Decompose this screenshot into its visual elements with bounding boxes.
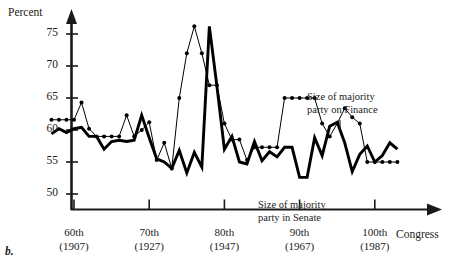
data-point-marker xyxy=(395,160,399,164)
x-tick-label: 80th(1947) xyxy=(194,226,254,252)
data-point-marker xyxy=(358,122,362,126)
data-point-marker xyxy=(365,160,369,164)
x-tick-label-year: (1987) xyxy=(345,240,405,252)
data-point-marker xyxy=(283,96,287,100)
data-point-marker xyxy=(140,128,144,132)
x-tick-label: 100th(1987) xyxy=(345,226,405,252)
data-point-marker xyxy=(275,145,279,149)
data-point-marker xyxy=(388,160,392,164)
y-tick-label: 65 xyxy=(32,90,58,102)
data-point-marker xyxy=(125,113,129,117)
x-tick-label-congress: 60th xyxy=(44,226,104,238)
data-point-marker xyxy=(192,24,196,28)
data-point-marker xyxy=(102,134,106,138)
x-tick-label: 90th(1967) xyxy=(270,226,330,252)
y-axis xyxy=(66,9,77,210)
y-tick-label: 60 xyxy=(32,122,58,134)
y-axis-title: Percent xyxy=(8,6,42,18)
chart-figure: Percent Congress b. 505560657075 60th(19… xyxy=(0,0,454,274)
x-tick-label-congress: 70th xyxy=(119,226,179,238)
data-point-marker xyxy=(80,100,84,104)
data-point-marker xyxy=(117,134,121,138)
x-tick-label-year: (1967) xyxy=(270,240,330,252)
annotation-finance-line2: party on Finance xyxy=(307,104,378,117)
x-tick-label-congress: 100th xyxy=(345,226,405,238)
data-point-marker xyxy=(320,122,324,126)
x-tick-label-year: (1947) xyxy=(194,240,254,252)
annotation-senate: Size of majority party in Senate xyxy=(258,199,326,224)
x-tick-label-year: (1907) xyxy=(44,240,104,252)
data-point-marker xyxy=(237,138,241,142)
panel-label: b. xyxy=(5,245,14,257)
x-tick-label-congress: 90th xyxy=(270,226,330,238)
y-tick-label: 70 xyxy=(32,58,58,70)
data-point-marker xyxy=(177,96,181,100)
x-tick-label-year: (1927) xyxy=(119,240,179,252)
data-point-marker xyxy=(298,96,302,100)
data-point-marker xyxy=(207,83,211,87)
annotation-senate-line2: party in Senate xyxy=(258,212,326,225)
data-point-marker xyxy=(162,141,166,145)
data-point-marker xyxy=(200,51,204,55)
data-point-marker xyxy=(87,127,91,131)
data-point-marker xyxy=(147,120,151,124)
data-point-marker xyxy=(64,118,68,122)
y-tick-label: 75 xyxy=(32,26,58,38)
data-point-marker xyxy=(222,122,226,126)
y-tick-label: 55 xyxy=(32,154,58,166)
y-tick-label: 50 xyxy=(32,186,58,198)
x-tick-label: 70th(1927) xyxy=(119,226,179,252)
annotation-finance: Size of majority party on Finance xyxy=(307,91,378,116)
data-point-marker xyxy=(380,160,384,164)
x-axis-ticks xyxy=(74,200,375,210)
data-point-marker xyxy=(185,51,189,55)
x-tick-label-congress: 80th xyxy=(194,226,254,238)
data-point-marker xyxy=(268,145,272,149)
data-point-marker xyxy=(290,96,294,100)
annotation-senate-line1: Size of majority xyxy=(258,199,326,212)
data-point-marker xyxy=(110,134,114,138)
annotation-finance-line1: Size of majority xyxy=(307,91,378,104)
data-point-marker xyxy=(72,118,76,122)
data-point-marker xyxy=(260,145,264,149)
x-axis xyxy=(71,204,442,216)
x-tick-label: 60th(1907) xyxy=(44,226,104,252)
